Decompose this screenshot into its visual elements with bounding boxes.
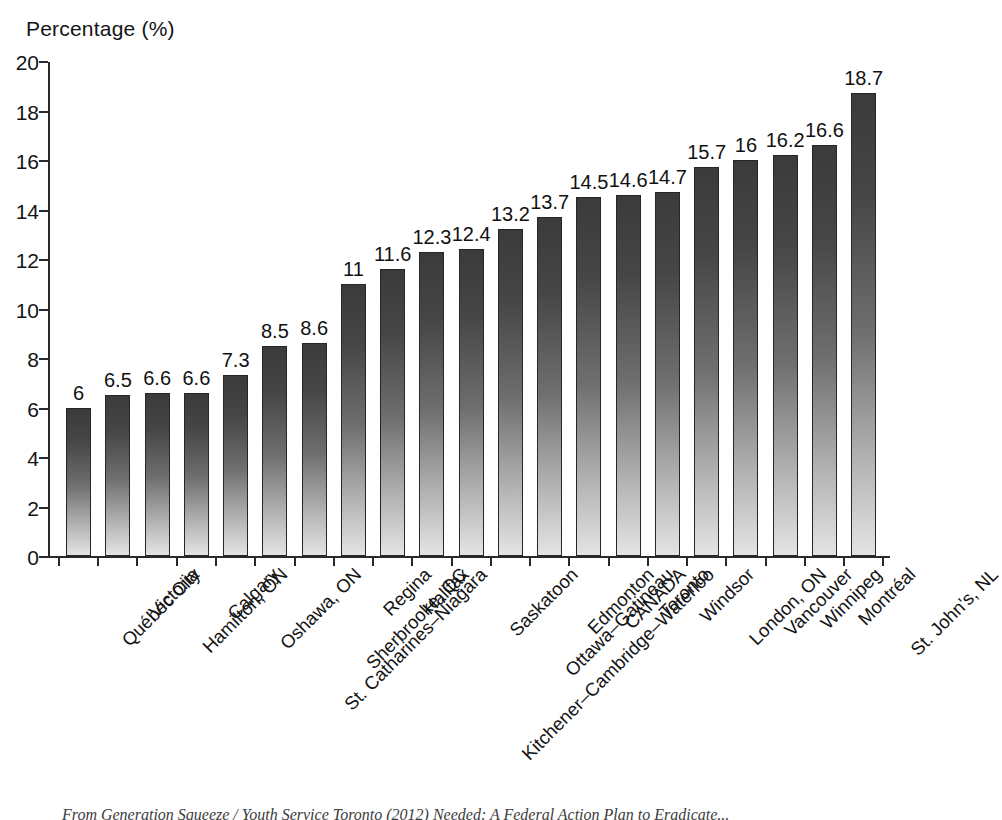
y-axis-tick [39,61,48,63]
x-axis-tick [254,557,256,566]
bar-value-label: 14.7 [648,167,687,187]
bar [380,269,405,556]
x-axis-tick [411,557,413,566]
bar-value-label: 16.6 [805,120,844,140]
x-axis-tick [215,557,217,566]
bar [145,393,170,556]
y-axis-tick-label: 14 [0,201,39,222]
x-axis-tick [608,557,610,566]
bar [733,160,758,556]
x-axis-tick [529,557,531,566]
x-axis-tick [725,557,727,566]
x-axis-tick [176,557,178,566]
bar-value-label: 6.6 [143,368,171,388]
y-axis-tick-label: 12 [0,250,39,271]
x-axis-category-label: St. John's, NL [907,565,1001,659]
bar [498,229,523,556]
y-axis-line [48,62,50,557]
bar [694,167,719,556]
bar [419,252,444,556]
y-axis-tick-label: 20 [0,52,39,73]
bar [105,395,130,556]
x-axis-tick [686,557,688,566]
y-axis-tick [39,210,48,212]
bar [341,284,366,556]
bar-value-label: 8.6 [300,318,328,338]
bar [223,375,248,556]
x-axis-tick [882,557,884,566]
x-axis-tick [136,557,138,566]
x-axis-tick [647,557,649,566]
x-axis-tick [58,557,60,566]
x-axis-tick [372,557,374,566]
bar-value-label: 14.6 [609,170,648,190]
y-axis-tick-label: 10 [0,300,39,321]
bar [302,343,327,556]
bar-value-label: 6.6 [182,368,210,388]
y-axis-tick [39,259,48,261]
bar [851,93,876,556]
bar [616,195,641,556]
y-axis-tick-label: 16 [0,151,39,172]
bar [537,217,562,556]
x-axis-category-label: Victoria [146,565,202,621]
bar [262,346,287,556]
bar [576,197,601,556]
bar-value-label: 16 [735,135,757,155]
y-axis-tick [39,507,48,509]
bar-value-label: 11 [343,259,364,279]
y-axis-tick-label: 8 [0,349,39,370]
y-axis-tick [39,358,48,360]
x-axis-category-label: Saskatoon [507,565,582,640]
bar [184,393,209,556]
x-axis-tick [804,557,806,566]
bar-value-label: 15.7 [687,142,726,162]
y-axis-tick [39,160,48,162]
bar-value-label: 12.3 [412,227,451,247]
x-axis-tick [97,557,99,566]
x-axis-tick [333,557,335,566]
plot-area: 02468101214161820 66.56.66.67.38.58.6111… [48,62,890,557]
bar-value-label: 16.2 [766,130,805,150]
source-caption: From Generation Squeeze / Youth Service … [62,806,892,820]
bar-value-label: 13.7 [530,192,569,212]
x-axis-tick [294,557,296,566]
y-axis-tick [39,408,48,410]
bar-value-label: 6 [73,383,84,403]
bar-value-label: 8.5 [261,321,289,341]
y-axis-tick-label: 2 [0,498,39,519]
y-axis-tick-labels: 02468101214161820 [0,62,39,557]
x-axis-tick [490,557,492,566]
bar-value-label: 18.7 [844,68,883,88]
bar-value-label: 13.2 [491,204,530,224]
y-axis-tick-label: 4 [0,448,39,469]
x-axis-tick [765,557,767,566]
bar-value-label: 7.3 [222,350,250,370]
bar-value-label: 11.6 [374,244,411,264]
bar [812,145,837,556]
bar-value-label: 12.4 [452,224,491,244]
bar [459,249,484,556]
bar-value-label: 6.5 [104,370,132,390]
y-axis-tick-label: 18 [0,102,39,123]
bar [66,408,91,557]
bar [773,155,798,556]
y-axis-tick-label: 6 [0,399,39,420]
x-axis-tick [451,557,453,566]
y-axis-tick [39,457,48,459]
y-axis-tick [39,111,48,113]
bar [655,192,680,556]
y-axis-tick [39,309,48,311]
y-axis-tick [39,556,48,558]
y-axis-title: Percentage (%) [26,17,175,41]
y-axis-tick-label: 0 [0,547,39,568]
bar-value-label: 14.5 [569,172,608,192]
